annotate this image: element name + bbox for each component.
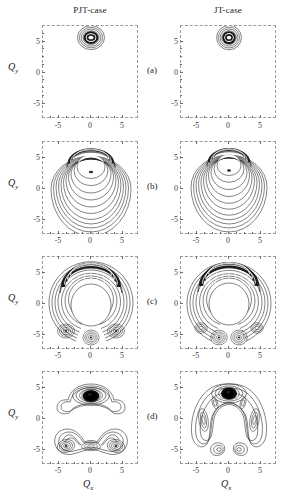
blob-outer-left — [195, 323, 207, 333]
xtick-label: -5 — [50, 121, 66, 130]
ytick-label: 0 — [162, 68, 178, 77]
xtick-label: 5 — [252, 466, 268, 475]
xtick-minor — [236, 116, 237, 118]
xtick-minor — [244, 347, 245, 349]
y-axis-sub: y — [15, 413, 18, 421]
xtick-major — [196, 115, 197, 118]
xtick-label: -5 — [188, 466, 204, 475]
x-axis-title-jt: Qx — [221, 478, 231, 492]
xtick-major — [90, 371, 91, 374]
xtick-minor — [244, 232, 245, 234]
xtick-label: -5 — [50, 466, 66, 475]
ytick-label: -5 — [162, 330, 178, 339]
xtick-major — [58, 231, 59, 234]
xtick-minor — [66, 232, 67, 234]
row-label-d: (d) — [147, 411, 158, 421]
xtick-label: 0 — [82, 236, 98, 245]
ytick-minor — [180, 48, 182, 49]
ytick-label: -5 — [162, 445, 178, 454]
xtick-label: 0 — [220, 466, 236, 475]
xtick-major — [122, 346, 123, 349]
xtick-minor — [220, 116, 221, 118]
ytick-label: 5 — [162, 268, 178, 277]
xtick-major — [90, 256, 91, 259]
row-label-c: (c) — [147, 296, 157, 306]
ytick-label: 5 — [162, 383, 178, 392]
xtick-minor — [66, 116, 67, 118]
xtick-label: 0 — [220, 236, 236, 245]
ytick-minor — [42, 79, 44, 80]
xtick-minor — [106, 347, 107, 349]
xtick-major — [228, 461, 229, 464]
ytick-major — [42, 418, 45, 419]
ytick-label: -5 — [24, 330, 40, 339]
xtick-label: 5 — [114, 466, 130, 475]
xtick-minor — [82, 116, 83, 118]
ytick-label: 0 — [24, 414, 40, 423]
xtick-major — [58, 141, 59, 144]
contour-plot-c-jt — [181, 257, 276, 349]
xtick-major — [58, 115, 59, 118]
xtick-label: 5 — [114, 121, 130, 130]
xtick-major — [260, 256, 261, 259]
ytick-minor — [180, 87, 182, 88]
xtick-major — [196, 461, 197, 464]
ytick-major — [180, 418, 183, 419]
ytick-major — [42, 188, 45, 189]
xtick-minor — [106, 462, 107, 464]
xtick-label: 5 — [114, 236, 130, 245]
ytick-major — [42, 72, 45, 73]
xtick-minor — [252, 232, 253, 234]
xtick-minor — [188, 347, 189, 349]
ytick-label: -5 — [162, 99, 178, 108]
y-axis-title-row-c: Qy — [8, 292, 18, 306]
xtick-major — [260, 346, 261, 349]
ytick-minor — [42, 87, 44, 88]
xtick-minor — [74, 347, 75, 349]
xtick-label: 0 — [82, 121, 98, 130]
column-title-pjt: PJT-case — [42, 5, 138, 15]
xtick-major — [196, 141, 197, 144]
xtick-minor — [114, 347, 115, 349]
ytick-major — [180, 272, 183, 273]
ytick-label: 5 — [162, 37, 178, 46]
ytick-major — [42, 449, 45, 450]
xtick-major — [228, 346, 229, 349]
xtick-major — [122, 231, 123, 234]
row-label-a: (a) — [147, 65, 157, 75]
contour-plot-d-jt — [181, 372, 276, 464]
xtick-minor — [204, 232, 205, 234]
ytick-major — [42, 387, 45, 388]
xtick-major — [228, 256, 229, 259]
ytick-minor — [180, 56, 182, 57]
xtick-label: -5 — [50, 236, 66, 245]
ytick-minor — [42, 64, 44, 65]
xtick-label: -5 — [50, 351, 66, 360]
xtick-minor — [98, 347, 99, 349]
xtick-minor — [212, 116, 213, 118]
xtick-major — [260, 115, 261, 118]
ytick-label: 5 — [24, 268, 40, 277]
xtick-minor — [188, 462, 189, 464]
panel-c-jt — [180, 256, 276, 349]
row-label-b: (b) — [147, 181, 158, 191]
ytick-major — [42, 219, 45, 220]
xtick-minor — [82, 232, 83, 234]
xtick-label: 0 — [220, 121, 236, 130]
xtick-minor — [220, 347, 221, 349]
xtick-major — [58, 256, 59, 259]
xtick-major — [228, 231, 229, 234]
ytick-label: 5 — [24, 383, 40, 392]
xtick-major — [90, 141, 91, 144]
xtick-minor — [212, 232, 213, 234]
ytick-major — [180, 157, 183, 158]
ytick-major — [42, 41, 45, 42]
xtick-minor — [252, 347, 253, 349]
xtick-minor — [98, 232, 99, 234]
xtick-minor — [106, 232, 107, 234]
ytick-major — [180, 72, 183, 73]
panel-a-jt — [180, 25, 276, 118]
xtick-major — [196, 346, 197, 349]
contour-plot-a-pjt — [43, 26, 138, 118]
panel-b-jt — [180, 141, 276, 234]
